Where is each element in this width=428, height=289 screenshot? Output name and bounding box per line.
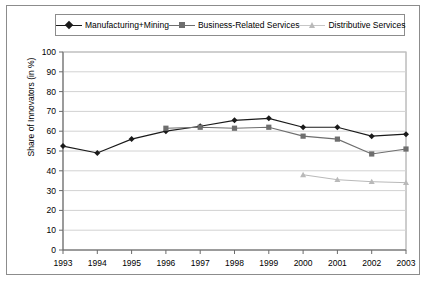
- x-tick-label: 2002: [362, 258, 381, 268]
- y-tick-label: 20: [47, 205, 57, 215]
- x-tick-label: 1994: [88, 258, 107, 268]
- x-tick-label: 1993: [54, 258, 73, 268]
- y-tick-label: 30: [47, 186, 57, 196]
- y-tick-label: 80: [47, 87, 57, 97]
- x-tick-label: 1999: [259, 258, 278, 268]
- x-tick-label: 1995: [122, 258, 141, 268]
- y-tick-label: 50: [47, 146, 57, 156]
- data-point-marker: [163, 126, 168, 131]
- y-tick-label: 10: [47, 225, 57, 235]
- data-point-marker: [403, 146, 408, 151]
- data-point-marker: [232, 126, 237, 131]
- x-tick-label: 1996: [156, 258, 175, 268]
- data-point-marker: [335, 137, 340, 142]
- y-tick-label: 90: [47, 67, 57, 77]
- y-tick-label: 70: [47, 106, 57, 116]
- y-tick-label: 0: [51, 245, 56, 255]
- y-tick-label: 40: [47, 166, 57, 176]
- x-tick-label: 1998: [225, 258, 244, 268]
- data-point-marker: [301, 134, 306, 139]
- x-tick-label: 2001: [328, 258, 347, 268]
- data-point-marker: [369, 151, 374, 156]
- y-tick-label: 60: [47, 126, 57, 136]
- y-tick-label: 100: [42, 47, 56, 57]
- x-tick-label: 1997: [191, 258, 210, 268]
- data-point-marker: [198, 125, 203, 130]
- x-tick-label: 2000: [294, 258, 313, 268]
- chart-plot-area: 0102030405060708090100199319941995199619…: [7, 6, 421, 276]
- x-tick-label: 2003: [397, 258, 416, 268]
- chart-figure: Manufacturing+Mining Business-Related Se…: [6, 5, 420, 275]
- data-point-marker: [266, 125, 271, 130]
